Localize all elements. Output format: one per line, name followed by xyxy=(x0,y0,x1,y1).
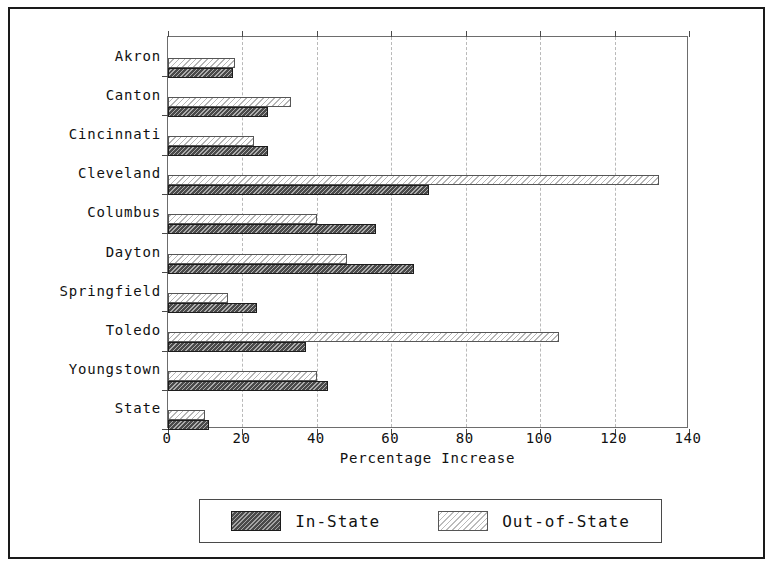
bar-out-of-state xyxy=(168,254,347,264)
chart-legend: In-State Out-of-State xyxy=(199,499,662,543)
category-label: Canton xyxy=(106,87,161,103)
bar-out-of-state xyxy=(168,371,317,381)
category-axis: AkronCantonCincinnatiClevelandColumbusDa… xyxy=(0,36,161,428)
bar-in-state xyxy=(168,420,209,430)
x-tick-label: 40 xyxy=(307,430,325,446)
bar-out-of-state xyxy=(168,293,228,303)
chart-page: AkronCantonCincinnatiClevelandColumbusDa… xyxy=(0,0,773,568)
x-tick-label: 60 xyxy=(381,430,399,446)
bar-in-state xyxy=(168,342,306,352)
x-tick-mark-top xyxy=(689,31,690,37)
bar-out-of-state xyxy=(168,332,559,342)
x-tick-label: 0 xyxy=(163,430,172,446)
x-tick-label: 80 xyxy=(456,430,474,446)
legend-swatch-out-of-state xyxy=(438,511,488,531)
legend-label-out-of-state: Out-of-State xyxy=(502,512,630,531)
category-label: Youngstown xyxy=(69,361,161,377)
bar-out-of-state xyxy=(168,58,235,68)
x-tick-mark-top xyxy=(540,31,541,37)
gridline xyxy=(615,37,617,427)
plot-area xyxy=(167,36,688,428)
bar-in-state xyxy=(168,224,376,234)
category-label: Columbus xyxy=(87,204,161,220)
category-label: Akron xyxy=(115,48,161,64)
category-label: Cincinnati xyxy=(69,126,161,142)
x-tick-mark-top xyxy=(466,31,467,37)
x-tick-mark-top xyxy=(168,31,169,37)
bar-in-state xyxy=(168,303,257,313)
x-axis-title: Percentage Increase xyxy=(167,450,688,466)
legend-swatch-in-state xyxy=(231,511,281,531)
x-tick-mark-top xyxy=(242,31,243,37)
bar-in-state xyxy=(168,68,233,78)
bar-chart: AkronCantonCincinnatiClevelandColumbusDa… xyxy=(0,0,773,470)
bar-in-state xyxy=(168,146,268,156)
bar-out-of-state xyxy=(168,410,205,420)
bar-in-state xyxy=(168,264,414,274)
category-label: Springfield xyxy=(59,283,161,299)
category-label: State xyxy=(115,400,161,416)
bar-out-of-state xyxy=(168,136,254,146)
x-tick-mark-top xyxy=(317,31,318,37)
x-tick-label: 100 xyxy=(526,430,553,446)
gridline xyxy=(466,37,468,427)
category-label: Toledo xyxy=(106,322,161,338)
bar-in-state xyxy=(168,107,268,117)
bar-out-of-state xyxy=(168,214,317,224)
bar-out-of-state xyxy=(168,175,659,185)
legend-entry-out-of-state: Out-of-State xyxy=(438,511,630,531)
bar-in-state xyxy=(168,381,328,391)
x-tick-label: 140 xyxy=(675,430,702,446)
bar-out-of-state xyxy=(168,97,291,107)
x-tick-mark-top xyxy=(615,31,616,37)
category-label: Dayton xyxy=(106,244,161,260)
x-tick-label: 20 xyxy=(232,430,250,446)
x-tick-label: 120 xyxy=(600,430,627,446)
x-tick-mark-top xyxy=(391,31,392,37)
category-label: Cleveland xyxy=(78,165,161,181)
bar-in-state xyxy=(168,185,429,195)
gridline xyxy=(391,37,393,427)
legend-entry-in-state: In-State xyxy=(231,511,380,531)
gridline xyxy=(540,37,542,427)
legend-label-in-state: In-State xyxy=(295,512,380,531)
